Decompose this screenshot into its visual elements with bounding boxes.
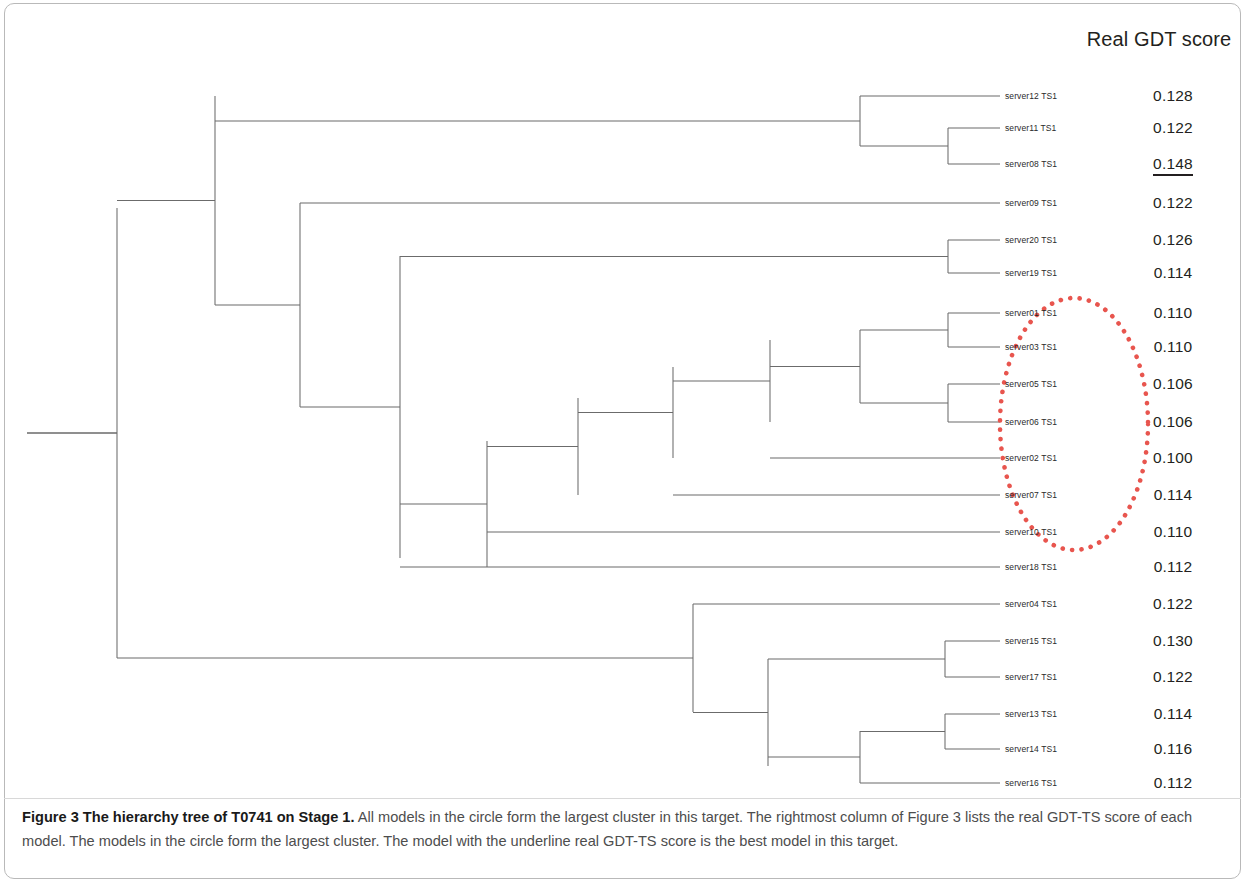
leaf-label-server05: server05 TS1	[1005, 379, 1057, 389]
score-server02: 0.100	[1118, 449, 1228, 467]
score-value: 0.148	[1153, 155, 1193, 176]
leaf-label-server19: server19 TS1	[1005, 268, 1057, 278]
leaf-label-server14: server14 TS1	[1005, 744, 1057, 754]
score-value: 0.122	[1153, 595, 1193, 612]
score-server11: 0.122	[1118, 119, 1228, 137]
leaf-branches	[300, 96, 1000, 783]
score-server17: 0.122	[1118, 668, 1228, 686]
score-server15: 0.130	[1118, 632, 1228, 650]
tree-branches	[27, 96, 948, 783]
score-server13: 0.114	[1118, 705, 1228, 723]
score-server05: 0.106	[1118, 375, 1228, 393]
score-value: 0.126	[1153, 231, 1193, 248]
score-value: 0.122	[1153, 194, 1193, 211]
score-server10: 0.110	[1118, 523, 1228, 541]
caption-divider	[4, 798, 1241, 799]
score-value: 0.100	[1153, 449, 1193, 466]
score-value: 0.130	[1153, 632, 1193, 649]
score-server04: 0.122	[1118, 595, 1228, 613]
figure-caption: Figure 3 The hierarchy tree of T0741 on …	[22, 806, 1222, 853]
leaf-label-server06: server06 TS1	[1005, 417, 1057, 427]
score-server01: 0.110	[1118, 304, 1228, 322]
score-server06: 0.106	[1118, 413, 1228, 431]
score-server14: 0.116	[1118, 740, 1228, 758]
figure-container: Real GDT score server12 TS1server11 TS1s…	[0, 0, 1247, 886]
score-value: 0.122	[1153, 119, 1193, 136]
leaf-label-server20: server20 TS1	[1005, 235, 1057, 245]
score-value: 0.112	[1154, 774, 1193, 791]
score-server07: 0.114	[1118, 486, 1228, 504]
leaf-label-server16: server16 TS1	[1005, 778, 1057, 788]
score-server18: 0.112	[1118, 558, 1228, 576]
score-value: 0.114	[1154, 486, 1193, 503]
leaf-label-server15: server15 TS1	[1005, 636, 1057, 646]
score-server12: 0.128	[1118, 87, 1228, 105]
leaf-label-server07: server07 TS1	[1005, 490, 1057, 500]
leaf-label-server09: server09 TS1	[1005, 198, 1057, 208]
score-value: 0.110	[1154, 338, 1193, 355]
score-server16: 0.112	[1118, 774, 1228, 792]
score-value: 0.106	[1153, 413, 1193, 430]
score-value: 0.106	[1153, 375, 1193, 392]
score-value: 0.128	[1153, 87, 1193, 104]
score-value: 0.110	[1154, 523, 1193, 540]
score-value: 0.114	[1154, 705, 1193, 722]
leaf-label-server02: server02 TS1	[1005, 453, 1057, 463]
leaf-label-server17: server17 TS1	[1005, 672, 1057, 682]
score-server09: 0.122	[1118, 194, 1228, 212]
score-value: 0.112	[1154, 558, 1193, 575]
score-value: 0.110	[1154, 304, 1193, 321]
score-server19: 0.114	[1118, 264, 1228, 282]
dendrogram-area	[0, 0, 1247, 800]
score-value: 0.122	[1153, 668, 1193, 685]
leaf-label-server01: server01 TS1	[1005, 308, 1057, 318]
leaf-label-server10: server10 TS1	[1005, 527, 1057, 537]
score-server20: 0.126	[1118, 231, 1228, 249]
leaf-label-server13: server13 TS1	[1005, 709, 1057, 719]
leaf-label-server11: server11 TS1	[1005, 123, 1056, 133]
caption-title: Figure 3 The hierarchy tree of T0741 on …	[22, 809, 355, 825]
score-value: 0.116	[1154, 740, 1193, 757]
score-value: 0.114	[1154, 264, 1193, 281]
leaf-label-server04: server04 TS1	[1005, 599, 1057, 609]
leaf-label-server12: server12 TS1	[1005, 91, 1057, 101]
leaf-label-server18: server18 TS1	[1005, 562, 1057, 572]
score-server03: 0.110	[1118, 338, 1228, 356]
leaf-label-server03: server03 TS1	[1005, 342, 1057, 352]
score-server08: 0.148	[1118, 155, 1228, 173]
leaf-label-server08: server08 TS1	[1005, 159, 1057, 169]
dendrogram-svg	[0, 0, 1247, 800]
score-column-header: Real GDT score	[1079, 28, 1239, 51]
